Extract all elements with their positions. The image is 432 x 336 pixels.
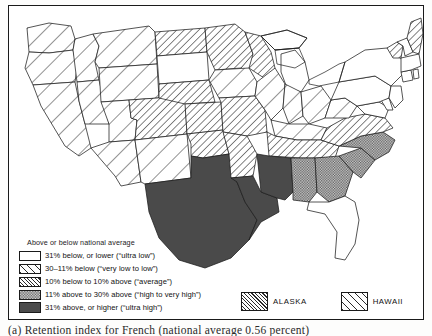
legend-label-average: 10% below to 10% above (“average”) bbox=[45, 277, 172, 286]
legend-label-ultra-low: 31% below, or lower (“ultra low”) bbox=[45, 251, 155, 260]
figure-caption-text: (a) Retention index for French (national… bbox=[8, 324, 428, 336]
inset-swatch-alaska bbox=[241, 292, 268, 311]
figure-map-retention-index: Above or below national average 31% belo… bbox=[0, 0, 432, 336]
legend-swatch-high-to-very-high bbox=[19, 290, 41, 301]
figure-caption: (a) Retention index for French (national… bbox=[8, 324, 428, 336]
state-south-dakota bbox=[157, 52, 209, 84]
state-north-dakota bbox=[155, 28, 207, 56]
state-idaho bbox=[73, 34, 99, 82]
state-kansas bbox=[185, 102, 223, 134]
inset-state-keys: ALASKA HAWAII bbox=[241, 292, 403, 311]
state-rhode-island bbox=[413, 69, 419, 79]
legend-item-ultra-low: 31% below, or lower (“ultra low”) bbox=[19, 250, 419, 263]
state-arizona bbox=[91, 140, 141, 186]
legend-swatch-very-low-to-low bbox=[19, 264, 41, 275]
legend-swatch-average bbox=[19, 277, 41, 288]
state-wyoming bbox=[99, 64, 159, 102]
state-minnesota bbox=[205, 24, 253, 70]
inset-swatch-hawaii bbox=[341, 292, 368, 311]
legend-swatch-ultra-high bbox=[19, 302, 41, 313]
legend-label-very-low-to-low: 30–11% below (“very low to low”) bbox=[45, 264, 158, 273]
legend-item-very-low-to-low: 30–11% below (“very low to low”) bbox=[19, 262, 419, 275]
state-alabama bbox=[291, 158, 317, 202]
state-washington bbox=[27, 23, 75, 53]
legend-title: Above or below national average bbox=[27, 238, 419, 247]
legend-swatch-ultra-low bbox=[19, 251, 41, 262]
legend-item-average: 10% below to 10% above (“average”) bbox=[19, 275, 419, 288]
inset-label-alaska: ALASKA bbox=[273, 297, 307, 306]
inset-label-hawaii: HAWAII bbox=[373, 297, 403, 306]
legend-label-high-to-very-high: 11% above to 30% above (“high to very hi… bbox=[45, 290, 201, 299]
inset-alaska: ALASKA bbox=[241, 292, 307, 311]
inset-hawaii: HAWAII bbox=[341, 292, 403, 311]
state-new-mexico bbox=[135, 134, 191, 184]
state-iowa bbox=[209, 68, 257, 98]
state-oklahoma bbox=[187, 130, 229, 158]
map-plate-frame: Above or below national average 31% belo… bbox=[8, 5, 424, 320]
state-oregon bbox=[25, 50, 77, 85]
legend-label-ultra-high: 31% above, or higher (“ultra high”) bbox=[45, 303, 162, 312]
state-montana bbox=[93, 26, 157, 68]
